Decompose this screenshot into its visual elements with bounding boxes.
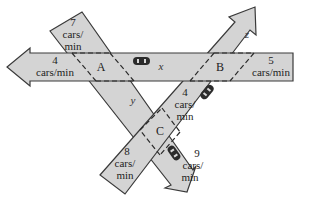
flow-a-out-num: 4: [52, 54, 58, 66]
variable-x-label: x: [158, 60, 164, 72]
node-a-label: A: [97, 60, 106, 74]
flow-bc-num: 4: [182, 86, 188, 98]
node-b-label: B: [216, 60, 224, 74]
flow-c-out-unit2: min: [181, 171, 199, 183]
flow-c-out-num: 9: [194, 147, 200, 159]
node-c-label: C: [156, 124, 164, 138]
car-icon: [133, 57, 150, 65]
flow-b-in-unit: cars/min: [252, 66, 290, 78]
flow-bc-unit: cars/: [175, 98, 197, 110]
flow-a-out-unit: cars/min: [36, 66, 74, 78]
flow-c-in-unit: cars/: [115, 157, 137, 169]
flow-a-in-unit2: min: [64, 40, 82, 52]
flow-bc-unit2: min: [176, 110, 194, 122]
flow-c-in-num: 8: [124, 145, 130, 157]
variable-y-label: y: [130, 94, 136, 106]
flow-a-in-unit: cars/: [63, 28, 85, 40]
flow-b-in-num: 5: [268, 54, 274, 66]
flow-c-out-unit: cars/: [183, 159, 205, 171]
variable-z-label: z: [244, 28, 250, 40]
flow-c-in-unit2: min: [116, 169, 134, 181]
traffic-diagram: A B C x y z 7 cars/ min 4 cars/min 5 car…: [0, 0, 312, 198]
flow-a-in-num: 7: [70, 16, 76, 28]
